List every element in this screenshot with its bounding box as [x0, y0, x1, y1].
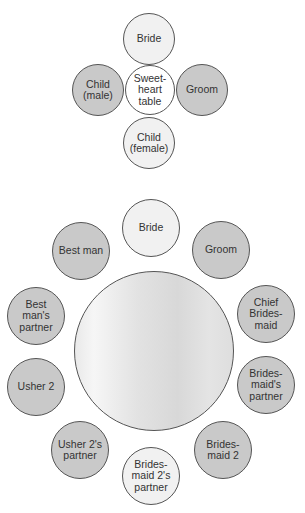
seat-label: Usher 2	[18, 381, 55, 393]
seat-label: Bride	[137, 33, 162, 45]
seat-label: Bride	[139, 222, 164, 234]
seat-label: Groom	[186, 84, 218, 96]
sweetheart-table: Sweet- heart table	[125, 65, 175, 115]
seat-label: Child (female)	[130, 132, 169, 155]
seat-groom: Groom	[192, 221, 250, 279]
seat-brides-maid-2: Brides- maid 2	[194, 421, 252, 479]
seat-label: Groom	[205, 244, 237, 256]
round-table	[74, 271, 234, 431]
seat-label: Usher 2's partner	[58, 439, 102, 462]
seat-best-man-s-partner: Best man's partner	[7, 287, 65, 345]
seat-label: Sweet- heart table	[134, 73, 167, 108]
seat-usher-2: Usher 2	[7, 358, 65, 416]
seat-bride: Bride	[122, 199, 180, 257]
seat-brides-maid-s-partner: Brides- maid's partner	[237, 356, 295, 414]
seat-label: Brides- maid 2's partner	[132, 459, 171, 494]
seat-best-man: Best man	[52, 222, 110, 280]
seat-brides-maid-2-s-partner: Brides- maid 2's partner	[122, 447, 180, 505]
seat-label: Brides- maid 2	[206, 439, 239, 462]
seating-diagram: Sweet- heart tableBrideChild (male)Groom…	[0, 0, 305, 513]
seat-usher-2-s-partner: Usher 2's partner	[51, 421, 109, 479]
seat-child-female: Child (female)	[123, 117, 175, 169]
seat-bride: Bride	[123, 13, 175, 65]
seat-child-male: Child (male)	[72, 64, 124, 116]
seat-label: Brides- maid's partner	[249, 368, 282, 403]
seat-groom: Groom	[176, 64, 228, 116]
seat-label: Best man	[59, 245, 103, 257]
seat-label: Chief Brides- maid	[249, 297, 282, 332]
seat-label: Child (male)	[83, 79, 113, 102]
seat-label: Best man's partner	[19, 299, 52, 334]
seat-chief-brides-maid: Chief Brides- maid	[237, 285, 295, 343]
